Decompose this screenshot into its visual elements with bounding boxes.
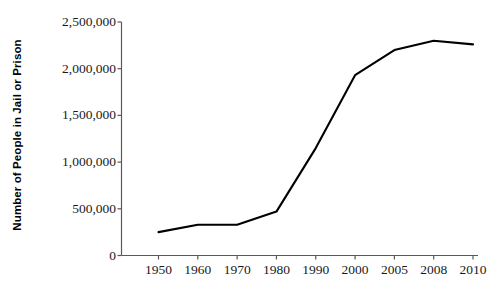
chart-figure: Number of People in Jail or Prison 0500,… <box>0 0 500 301</box>
axis-lines <box>122 22 479 256</box>
data-series-line <box>159 41 474 232</box>
plot-area <box>0 0 500 301</box>
